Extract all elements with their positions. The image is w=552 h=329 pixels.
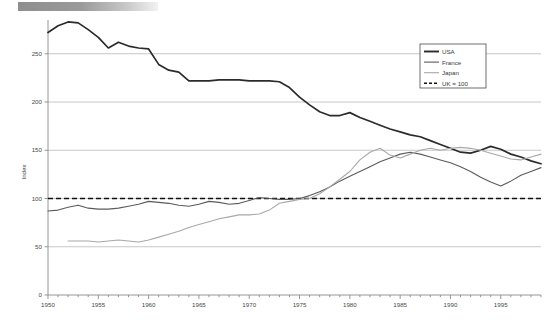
series-line-france bbox=[48, 152, 541, 211]
x-tick-label: 1980 bbox=[343, 301, 357, 308]
y-tick-label: 200 bbox=[32, 98, 43, 105]
series-line-japan bbox=[68, 147, 541, 242]
chart-legend: USAFranceJapanUK = 100 bbox=[420, 44, 486, 88]
legend-label-2: Japan bbox=[442, 69, 459, 76]
x-tick-label: 1970 bbox=[242, 301, 256, 308]
x-tick-labels: 1950195519601965197019751980198519901995 bbox=[41, 301, 508, 308]
x-tick-label: 1985 bbox=[393, 301, 407, 308]
y-tick-label: 100 bbox=[32, 195, 43, 202]
x-tick-label: 1975 bbox=[293, 301, 307, 308]
series-line-usa bbox=[48, 22, 541, 164]
y-tick-label: 50 bbox=[35, 243, 42, 250]
y-axis-title: Index bbox=[20, 164, 27, 180]
y-tick-labels: 050100150200250 bbox=[32, 50, 43, 298]
chart-canvas: 050100150200250 195019551960196519701975… bbox=[0, 0, 552, 329]
y-tick-label: 0 bbox=[39, 291, 43, 298]
legend-label-3: UK = 100 bbox=[442, 80, 469, 87]
y-tick-label: 150 bbox=[32, 146, 43, 153]
x-tick-label: 1950 bbox=[41, 301, 55, 308]
x-tick-label: 1955 bbox=[91, 301, 105, 308]
legend-label-1: France bbox=[442, 59, 462, 66]
y-tick-marks bbox=[45, 54, 49, 295]
legend-label-0: USA bbox=[442, 48, 456, 55]
x-tick-label: 1990 bbox=[444, 301, 458, 308]
x-tick-marks bbox=[48, 295, 541, 299]
x-tick-label: 1960 bbox=[142, 301, 156, 308]
line-chart: 050100150200250 195019551960196519701975… bbox=[0, 0, 552, 329]
x-tick-label: 1995 bbox=[494, 301, 508, 308]
x-tick-label: 1965 bbox=[192, 301, 206, 308]
y-tick-label: 250 bbox=[32, 50, 43, 57]
